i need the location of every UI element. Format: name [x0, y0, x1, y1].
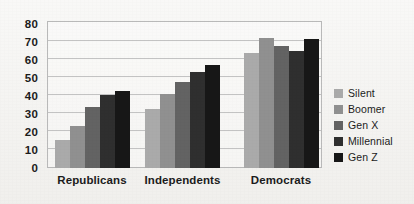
legend-item: Boomer — [334, 102, 412, 116]
legend-swatch-icon — [334, 153, 343, 162]
y-axis-tick-label: 40 — [25, 90, 38, 102]
y-axis-tick-label: 10 — [25, 144, 38, 156]
bar — [55, 140, 70, 168]
bars-layer — [48, 22, 321, 168]
x-axis-category-label: Democrats — [251, 174, 311, 186]
bar — [205, 65, 220, 168]
legend-label: Silent — [348, 87, 375, 99]
bar — [304, 39, 319, 168]
y-axis-tick-label: 80 — [25, 18, 38, 30]
y-axis-tick-label: 30 — [25, 108, 38, 120]
bar — [145, 109, 160, 168]
x-axis-category-labels: RepublicansIndependentsDemocrats — [48, 174, 321, 194]
bar — [160, 94, 175, 168]
bar — [115, 91, 130, 168]
legend-swatch-icon — [334, 89, 343, 98]
legend-label: Millennial — [348, 135, 393, 147]
bar — [274, 46, 289, 168]
bar-chart: 01020304050607080 RepublicansIndependent… — [0, 0, 414, 204]
bar-group — [55, 22, 130, 168]
legend-label: Boomer — [348, 103, 385, 115]
y-axis-tick-label: 0 — [31, 162, 38, 174]
y-axis-tick-labels: 01020304050607080 — [0, 21, 43, 168]
legend-item: Millennial — [334, 134, 412, 148]
bar-group — [244, 22, 319, 168]
y-axis-tick-label: 20 — [25, 126, 38, 138]
x-axis-category-label: Republicans — [57, 174, 126, 186]
bar — [244, 53, 259, 168]
legend-swatch-icon — [334, 105, 343, 114]
bar — [70, 126, 85, 168]
y-axis-tick-label: 70 — [25, 36, 38, 48]
legend-item: Silent — [334, 86, 412, 100]
legend-label: Gen X — [348, 119, 378, 131]
x-axis-category-label: Independents — [145, 174, 221, 186]
legend-item: Gen Z — [334, 150, 412, 164]
bar-group — [145, 22, 220, 168]
bar — [85, 107, 100, 168]
bar — [259, 38, 274, 168]
legend-swatch-icon — [334, 121, 343, 130]
bar — [190, 72, 205, 168]
bar — [175, 82, 190, 168]
bar — [100, 95, 115, 168]
legend-swatch-icon — [334, 137, 343, 146]
legend-item: Gen X — [334, 118, 412, 132]
legend-label: Gen Z — [348, 151, 378, 163]
bar — [289, 51, 304, 168]
legend: SilentBoomerGen XMillennialGen Z — [334, 86, 412, 166]
y-axis-tick-label: 60 — [25, 54, 38, 66]
y-axis-tick-label: 50 — [25, 72, 38, 84]
